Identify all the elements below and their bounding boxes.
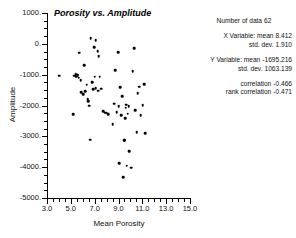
data-point xyxy=(124,117,127,120)
data-point xyxy=(72,113,75,116)
stat-count-label: Number of data xyxy=(217,17,262,24)
stat-x-mean-label: X Variable: mean xyxy=(223,32,273,39)
data-point xyxy=(130,166,133,169)
data-point xyxy=(116,111,119,114)
stat-y-mean-value: -1695.216 xyxy=(262,56,292,63)
data-point xyxy=(131,70,134,73)
data-point xyxy=(121,95,124,98)
stat-y-std: std. dev.1063.139 xyxy=(196,65,292,73)
data-point xyxy=(88,105,91,108)
x-tick-label: 15.0 xyxy=(183,205,198,213)
stat-y-mean-label: Y Variable: mean xyxy=(210,56,260,63)
x-tick-minor xyxy=(160,199,161,202)
data-point xyxy=(97,55,100,58)
x-tick-minor xyxy=(83,199,84,202)
x-tick-label: 7.0 xyxy=(89,205,99,213)
data-point xyxy=(143,83,146,86)
data-point xyxy=(95,39,98,42)
data-point xyxy=(127,105,130,108)
data-point xyxy=(89,138,92,141)
stat-rank-correlation-label: rank correlation xyxy=(226,88,271,95)
x-axis-title: Mean Porosity xyxy=(47,219,191,228)
y-tick-label: -5000. xyxy=(20,194,41,202)
x-tick-minor xyxy=(53,199,54,202)
data-point xyxy=(94,75,97,78)
data-point xyxy=(82,93,85,96)
x-tick-label: 9.0 xyxy=(113,205,123,213)
data-point xyxy=(119,86,122,89)
x-tick-label: 11.0 xyxy=(135,205,149,213)
stat-y-std-value: 1063.139 xyxy=(264,65,292,72)
stat-y-mean: Y Variable: mean-1695.216 xyxy=(196,56,292,64)
data-point xyxy=(139,114,142,117)
data-point xyxy=(144,132,147,135)
x-tick-label: 3.0 xyxy=(42,205,52,213)
x-tick-minor xyxy=(107,199,108,202)
x-tick-minor xyxy=(178,199,179,202)
data-point xyxy=(98,76,101,79)
data-point xyxy=(141,104,144,107)
data-point xyxy=(113,102,116,105)
data-point xyxy=(86,84,89,87)
data-point xyxy=(107,113,110,116)
stat-x-mean-value: 8.412 xyxy=(275,32,292,39)
x-tick-minor xyxy=(154,199,155,202)
data-point xyxy=(136,131,139,134)
x-tick-label: 13.0 xyxy=(159,205,174,213)
scatter-plot-figure: Porosity vs. Amplitude 1000.0.-1000.-200… xyxy=(0,0,296,238)
spacer xyxy=(196,25,292,32)
y-axis-title: Amplitude xyxy=(8,75,17,135)
data-point xyxy=(87,100,90,103)
y-tick-label: 0. xyxy=(35,40,41,48)
x-tick-minor xyxy=(101,199,102,202)
stat-rank-correlation-value: -0.471 xyxy=(273,88,292,95)
data-point xyxy=(133,47,136,50)
spacer xyxy=(196,73,292,80)
stat-correlation: correlation-0.466 xyxy=(196,80,292,88)
stat-x-mean: X Variable: mean8.412 xyxy=(196,32,292,40)
x-tick-minor xyxy=(148,199,149,202)
data-point xyxy=(120,114,123,117)
x-tick-minor xyxy=(65,199,66,202)
data-point xyxy=(111,123,114,126)
data-point xyxy=(89,37,92,40)
x-tick-minor xyxy=(124,199,125,202)
x-tick-minor xyxy=(77,199,78,202)
data-point xyxy=(123,139,126,142)
data-point xyxy=(93,46,96,49)
stat-x-std: std. dev.1.910 xyxy=(196,41,292,49)
data-point xyxy=(78,51,81,54)
data-point xyxy=(126,113,129,116)
stat-x-std-value: 1.910 xyxy=(275,41,292,48)
data-point xyxy=(79,79,82,82)
data-point xyxy=(114,69,117,72)
y-tick-label: -2000. xyxy=(20,102,41,110)
x-tick-minor xyxy=(172,199,173,202)
data-point xyxy=(118,162,121,165)
data-point xyxy=(91,81,94,84)
data-point xyxy=(128,150,131,153)
y-tick-label: -3000. xyxy=(20,132,41,140)
x-tick-label: 5.0 xyxy=(66,205,76,213)
data-point xyxy=(96,50,99,53)
stat-rank-correlation: rank correlation-0.471 xyxy=(196,88,292,96)
data-point xyxy=(100,87,103,90)
stat-x-std-label: std. dev. xyxy=(249,41,273,48)
statistics-panel: Number of data62 X Variable: mean8.412 s… xyxy=(196,17,292,97)
data-point xyxy=(122,176,125,179)
data-point xyxy=(138,85,141,88)
data-point xyxy=(117,105,120,108)
data-point xyxy=(83,64,86,67)
data-point xyxy=(134,109,137,112)
stat-correlation-label: correlation xyxy=(241,80,272,87)
stat-count-value: 62 xyxy=(264,17,271,24)
x-tick-minor xyxy=(89,199,90,202)
x-tick-minor xyxy=(136,199,137,202)
y-tick-label: 1000. xyxy=(22,9,41,17)
x-tick-minor xyxy=(113,199,114,202)
x-tick-minor xyxy=(130,199,131,202)
x-tick-minor xyxy=(59,199,60,202)
spacer xyxy=(196,49,292,56)
y-tick-label: -1000. xyxy=(20,71,41,79)
data-point xyxy=(126,164,129,167)
